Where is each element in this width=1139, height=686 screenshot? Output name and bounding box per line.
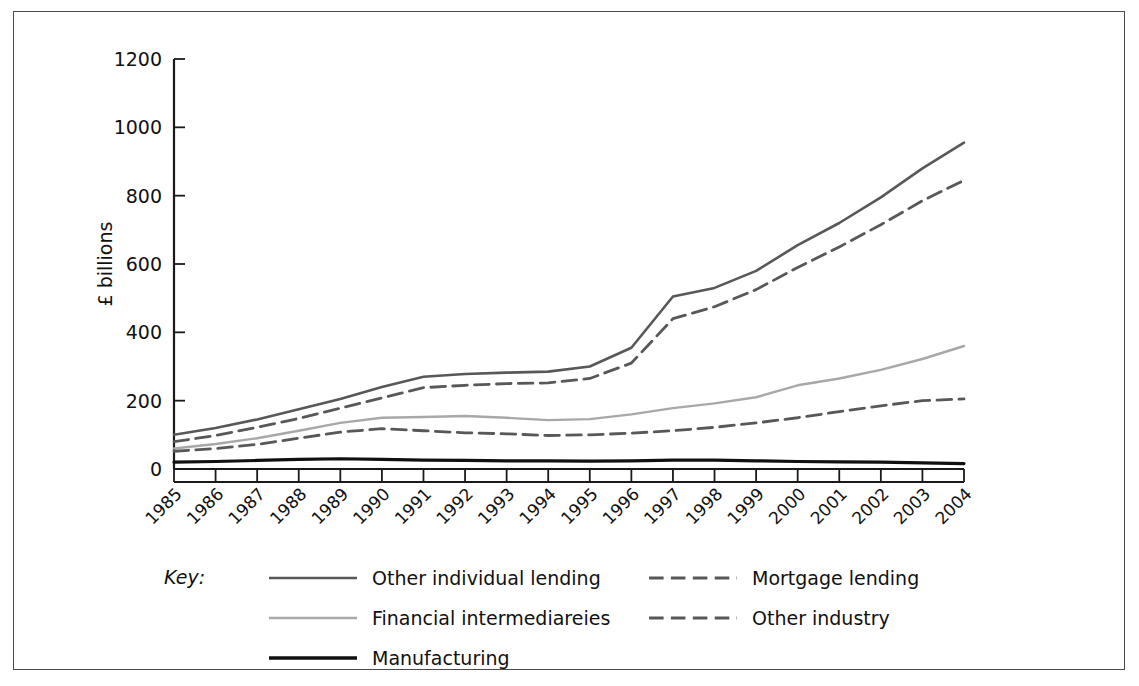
x-tick-label: 1999 — [723, 484, 768, 529]
chart-canvas: 020040060080010001200 198519861987198819… — [14, 12, 1126, 671]
x-tick-label: 1988 — [266, 484, 311, 529]
series-line-2 — [174, 346, 964, 449]
y-axis: 020040060080010001200 — [114, 48, 185, 480]
x-tick-label: 1998 — [682, 484, 727, 529]
legend-label-left-0: Other individual lending — [372, 567, 601, 589]
series-line-3 — [174, 399, 964, 451]
x-tick-label: 2003 — [890, 484, 935, 529]
x-tick-label: 1997 — [640, 484, 685, 529]
y-tick-label: 1200 — [114, 48, 162, 70]
legend-label-left-2: Manufacturing — [372, 647, 510, 669]
x-tick-label: 1985 — [141, 484, 186, 529]
x-tick-label: 2000 — [765, 484, 810, 529]
y-axis-title: £ billions — [94, 222, 116, 307]
x-tick-label: 1991 — [391, 484, 436, 529]
x-tick-label: 2004 — [931, 484, 976, 529]
chart-legend: Key:Other individual lendingFinancial in… — [164, 566, 919, 669]
x-tick-label: 1993 — [474, 484, 519, 529]
line-chart-svg: 020040060080010001200 198519861987198819… — [14, 12, 1126, 671]
y-tick-label: 200 — [126, 390, 162, 412]
legend-label-left-1: Financial intermediareies — [372, 607, 610, 629]
y-tick-label: 800 — [126, 185, 162, 207]
series-line-4 — [174, 459, 964, 464]
y-axis-title-text: £ billions — [94, 222, 116, 307]
x-tick-label: 1986 — [183, 484, 228, 529]
y-tick-label: 0 — [150, 458, 162, 480]
x-axis: 1985198619871988198919901991199219931994… — [141, 469, 976, 528]
x-tick-label: 1995 — [557, 484, 602, 529]
series-lines — [174, 143, 964, 464]
legend-label-right-1: Other industry — [752, 607, 890, 629]
y-tick-label: 400 — [126, 321, 162, 343]
x-tick-label: 1996 — [598, 484, 643, 529]
x-tick-label: 2002 — [848, 484, 893, 529]
x-tick-label: 1987 — [224, 484, 269, 529]
legend-label-right-0: Mortgage lending — [752, 567, 919, 589]
x-tick-label: 1994 — [515, 484, 560, 529]
x-tick-label: 1990 — [349, 484, 394, 529]
y-tick-label: 1000 — [114, 116, 162, 138]
x-tick-label: 1992 — [432, 484, 477, 529]
x-tick-label: 1989 — [307, 484, 352, 529]
figure-frame: 020040060080010001200 198519861987198819… — [13, 11, 1125, 670]
y-tick-label: 600 — [126, 253, 162, 275]
x-tick-label: 2001 — [806, 484, 851, 529]
legend-key-label: Key: — [164, 566, 205, 588]
series-line-0 — [174, 143, 964, 435]
